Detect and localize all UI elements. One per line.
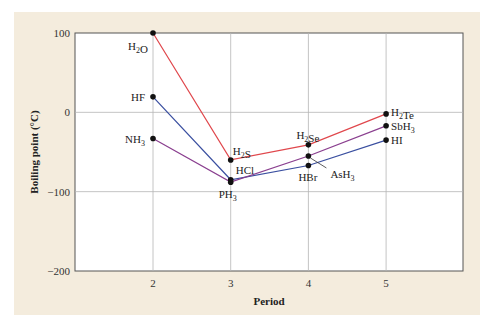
x-tick-label: 5	[383, 277, 389, 289]
y-tick-label: 100	[54, 27, 71, 39]
data-point	[383, 111, 389, 117]
point-label: HCl	[236, 164, 254, 176]
data-point	[383, 137, 389, 143]
x-tick-label: 3	[228, 277, 234, 289]
boiling-point-chart: 1000−100−2002345PeriodBoiling point (°C)…	[0, 0, 489, 327]
y-axis-title: Boiling point (°C)	[28, 110, 41, 194]
data-point	[306, 163, 312, 169]
point-label: HI	[391, 134, 403, 146]
x-axis-title: Period	[253, 295, 284, 307]
data-point	[228, 157, 234, 163]
data-point	[150, 94, 156, 100]
data-point	[306, 153, 312, 159]
data-point	[228, 179, 234, 185]
x-tick-label: 2	[150, 277, 156, 289]
point-label: HBr	[298, 171, 317, 183]
data-point	[150, 30, 156, 36]
y-tick-label: −100	[47, 186, 70, 198]
data-point	[383, 123, 389, 129]
data-point	[150, 136, 156, 142]
y-tick-label: 0	[65, 106, 71, 118]
x-tick-label: 4	[306, 277, 312, 289]
point-label: HF	[131, 91, 145, 103]
y-tick-label: −200	[47, 265, 70, 277]
